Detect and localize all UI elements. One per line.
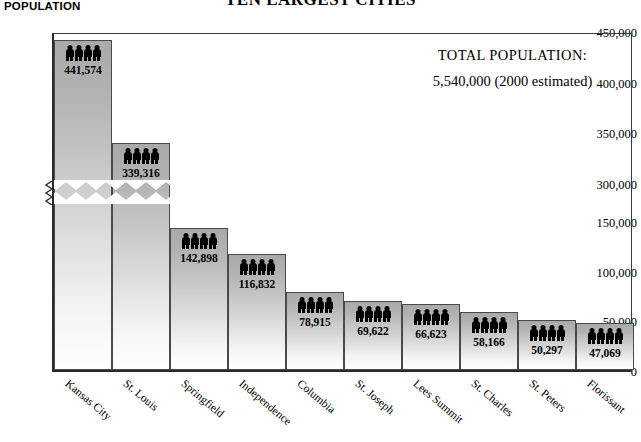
x-axis-tick-label: Florissant [585,377,627,415]
x-axis-tick-label: Columbia [295,377,337,415]
x-axis-tick-label: St. Charles [469,377,515,419]
x-axis-tick-label: St. Louis [121,377,161,413]
x-axis-tick-label: Kansas City [63,377,114,422]
x-axis-tick-labels: Kansas CitySt. LouisSpringfieldIndepende… [0,0,641,442]
x-axis-tick-label: Lees Summit [411,377,465,425]
x-axis-tick-label: St. Joseph [353,377,396,416]
x-axis-tick-label: Springfield [179,377,226,419]
x-axis-tick-label: Independence [237,377,294,427]
x-axis-tick-label: St. Peters [527,377,568,414]
